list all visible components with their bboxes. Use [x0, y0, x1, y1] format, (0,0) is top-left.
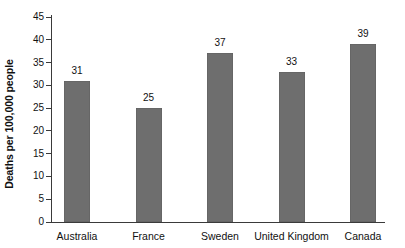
y-axis-tick — [46, 17, 51, 18]
bar-value-label: 39 — [333, 29, 393, 39]
x-axis-category-label: Canada — [313, 230, 405, 242]
y-axis-tick — [46, 39, 51, 40]
y-axis-tick — [46, 62, 51, 63]
y-axis-tick — [46, 176, 51, 177]
bar-value-label: 25 — [119, 93, 179, 103]
y-axis-tick — [46, 153, 51, 154]
bar-value-label: 37 — [190, 38, 250, 48]
y-axis-tick-label: 20 — [18, 126, 44, 136]
y-axis-tick-label: 40 — [18, 35, 44, 45]
bar-value-label: 31 — [47, 66, 107, 76]
y-axis-tick — [46, 199, 51, 200]
y-axis-tick-label: 45 — [18, 12, 44, 22]
y-axis-line — [51, 15, 52, 223]
y-axis-tick — [46, 108, 51, 109]
y-axis-title: Deaths per 100,000 people — [0, 0, 18, 248]
y-axis-tick-label: 25 — [18, 103, 44, 113]
y-axis-tick-label: 30 — [18, 80, 44, 90]
bar — [350, 44, 376, 222]
x-axis-line — [51, 222, 385, 223]
y-axis-tick-label: 5 — [18, 194, 44, 204]
y-axis-tick-label: 15 — [18, 149, 44, 159]
bar — [136, 108, 162, 222]
y-axis-tick — [46, 130, 51, 131]
bar-value-label: 33 — [262, 57, 322, 67]
bar — [64, 81, 90, 222]
bar — [207, 53, 233, 222]
y-axis-tick-label: 35 — [18, 58, 44, 68]
y-axis-tick-label: 10 — [18, 171, 44, 181]
bar-chart: Deaths per 100,000 people 05101520253035… — [0, 0, 405, 248]
y-axis-tick-label: 0 — [18, 217, 44, 227]
y-axis-tick — [46, 85, 51, 86]
bar — [279, 72, 305, 222]
y-axis-tick — [46, 222, 51, 223]
